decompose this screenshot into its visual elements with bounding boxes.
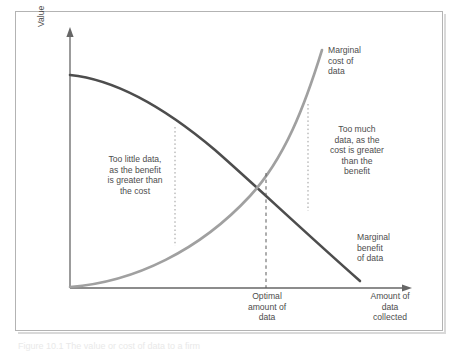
annotation-optimal-amount: Optimal amount of data <box>232 291 302 323</box>
annotation-too-little-data: Too little data, as the benefit is great… <box>95 154 175 196</box>
x-axis-label: Amount of data collected <box>350 291 430 323</box>
annotation-too-much-data: Too much data, as the cost is greater th… <box>314 124 400 177</box>
marginal-benefit-label: Marginal benefit of data <box>357 232 432 264</box>
marginal-cost-label: Marginal cost of data <box>328 45 398 77</box>
figure-caption: Figure 10.1 The value or cost of data to… <box>18 341 200 351</box>
y-axis-label: Value <box>36 0 47 27</box>
y-axis <box>66 27 73 288</box>
figure-container: Value Marginal cost of data Marginal ben… <box>0 0 458 352</box>
